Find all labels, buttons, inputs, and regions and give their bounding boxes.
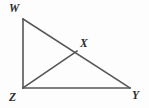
segment-zx	[23, 51, 77, 88]
geometry-canvas	[0, 0, 149, 108]
vertex-label-w: W	[9, 3, 19, 15]
vertex-label-x: X	[80, 38, 88, 50]
vertex-label-z: Z	[9, 92, 16, 104]
vertex-label-y: Y	[132, 90, 139, 102]
geometry-figure: W X Y Z	[0, 0, 149, 108]
